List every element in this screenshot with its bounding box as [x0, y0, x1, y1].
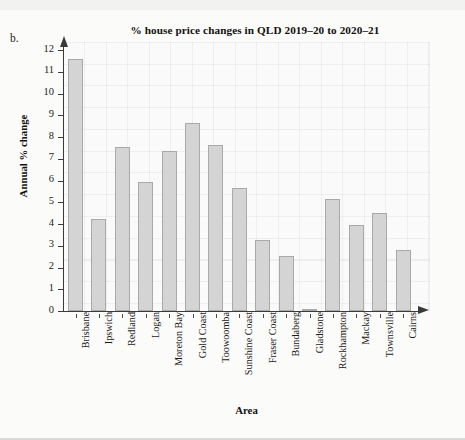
x-tick-mark — [99, 314, 100, 318]
bars-layer — [64, 50, 424, 311]
x-tick-mark — [169, 314, 170, 318]
x-axis-label: Moreton Bay — [173, 312, 184, 402]
y-tick-mark — [58, 246, 63, 247]
y-tick-label: 10 — [44, 86, 55, 97]
x-axis-label: Gold Coast — [197, 312, 208, 402]
y-tick-mark — [58, 137, 63, 138]
x-axis-label: Townsville — [384, 312, 395, 402]
y-tick-label: 6 — [49, 173, 54, 184]
x-tick-mark — [356, 314, 357, 318]
y-tick-mark — [58, 289, 63, 290]
y-tick-label: 5 — [49, 195, 54, 206]
x-axis-label: Redland — [126, 312, 137, 402]
bar — [232, 188, 247, 311]
x-tick-mark — [380, 314, 381, 318]
y-tick-label: 3 — [49, 238, 54, 249]
x-tick-mark — [239, 314, 240, 318]
bar — [325, 199, 340, 311]
y-tick-mark — [58, 115, 63, 116]
y-tick-mark — [58, 159, 63, 160]
bar — [279, 256, 294, 311]
bar — [349, 225, 364, 311]
x-tick-mark — [193, 314, 194, 318]
x-axis-label: Gladstone — [314, 312, 325, 402]
x-tick-mark — [310, 314, 311, 318]
bar — [115, 147, 130, 311]
bar — [208, 145, 223, 311]
y-tick-label: 0 — [49, 304, 54, 315]
y-tick-mark — [58, 181, 63, 182]
y-tick-label: 4 — [49, 217, 54, 228]
bar — [91, 219, 106, 311]
bar — [185, 123, 200, 311]
x-tick-mark — [333, 314, 334, 318]
y-axis-title: Annual % change — [17, 96, 29, 216]
x-tick-mark — [146, 314, 147, 318]
figure-label: b. — [10, 32, 19, 44]
x-axis-label: Brisbane — [80, 312, 91, 402]
x-tick-mark — [403, 314, 404, 318]
x-axis-label: Cairns — [407, 312, 418, 402]
x-tick-mark — [76, 314, 77, 318]
x-axis-label: Toowoomba — [220, 312, 231, 402]
y-tick-mark — [58, 268, 63, 269]
y-tick-label: 7 — [49, 151, 54, 162]
y-tick-mark — [58, 311, 63, 312]
bar — [396, 250, 411, 311]
y-tick-mark — [58, 94, 63, 95]
y-tick-label: 9 — [49, 108, 54, 119]
x-axis-label: Logan — [150, 312, 161, 402]
x-axis-label: Ipswich — [103, 312, 114, 402]
x-tick-mark — [286, 314, 287, 318]
bar — [68, 59, 83, 311]
bar — [138, 182, 153, 311]
x-axis-label: Sunshine Coast — [243, 312, 254, 402]
bar — [372, 213, 387, 311]
y-tick-label: 8 — [49, 130, 54, 141]
y-tick-label: 1 — [49, 282, 54, 293]
figure-page: b. % house price changes in QLD 2019–20 … — [0, 0, 465, 440]
bar — [162, 151, 177, 311]
x-axis-label: Rockhampton — [337, 312, 348, 402]
x-axis-title: Area — [63, 404, 430, 416]
bar — [255, 240, 270, 311]
x-tick-mark — [263, 314, 264, 318]
y-axis-arrow-icon — [60, 36, 68, 47]
y-tick-mark — [58, 224, 63, 225]
x-axis-label: Bundaberg — [290, 312, 301, 402]
x-axis-label: Fraser Coast — [267, 312, 278, 402]
x-tick-mark — [216, 314, 217, 318]
y-tick-label: 11 — [44, 64, 54, 75]
bar — [302, 309, 317, 311]
y-tick-label: 12 — [44, 43, 55, 54]
x-axis-labels: BrisbaneIpswichRedlandLoganMoreton BayGo… — [64, 314, 424, 404]
y-tick-label: 2 — [49, 260, 54, 271]
chart-title: % house price changes in QLD 2019–20 to … — [60, 24, 450, 36]
y-tick-mark — [58, 72, 63, 73]
y-tick-mark — [58, 202, 63, 203]
x-axis-label: Mackay — [360, 312, 371, 402]
x-tick-mark — [122, 314, 123, 318]
y-tick-mark — [58, 50, 63, 51]
